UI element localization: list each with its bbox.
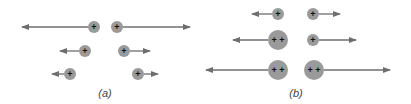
charge-sign: + [310,35,315,45]
charge-sign: + + [307,65,320,75]
charge-sign: + [121,46,126,56]
charge-sign: + [135,69,140,79]
charge-sign: + [310,9,315,19]
charge-sign: + [275,9,280,19]
charge-sign: + [114,22,119,32]
panel-a: ++++++ [22,21,190,80]
charge-sign: + [67,69,72,79]
panel-a-label: (a) [98,87,112,99]
charge-sign: + [82,46,87,56]
panel-b-label: (b) [289,87,303,99]
charge-sign: + + [271,35,284,45]
charge-sign: + + [271,65,284,75]
charge-sign: + [91,22,96,32]
coulomb-force-diagram: ++++++ +++ +++ ++ + (a) (b) [0,0,411,104]
panel-b: +++ +++ ++ + [206,8,390,80]
